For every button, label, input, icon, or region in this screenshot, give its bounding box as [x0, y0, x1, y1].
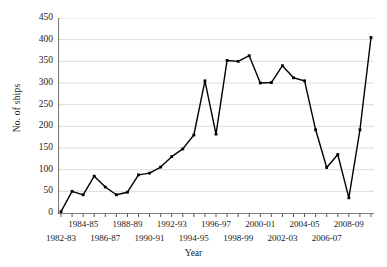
x-axis-title: Year	[0, 248, 387, 258]
y-tick-label: 100	[29, 165, 53, 175]
data-point-marker	[336, 153, 339, 156]
y-tick-label: 250	[29, 100, 53, 110]
y-axis-tick-labels: 050100150200250300350400450	[27, 0, 53, 267]
x-tick-label: 1986-87	[90, 234, 120, 243]
x-tick-label: 1996-97	[201, 220, 231, 229]
y-tick-label: 0	[29, 208, 53, 218]
x-tick-label: 1990-91	[135, 234, 165, 243]
data-point-marker	[71, 190, 74, 193]
x-tick-label: 2000-01	[245, 220, 275, 229]
data-point-marker	[237, 60, 240, 63]
data-point-marker	[215, 133, 218, 136]
x-tick-label: 1998-99	[223, 234, 253, 243]
data-point-marker	[148, 172, 151, 175]
data-point-marker	[259, 82, 262, 85]
data-point-marker	[60, 210, 63, 213]
line-chart: No. of ships 050100150200250300350400450…	[0, 0, 387, 267]
x-tick-label: 2008-09	[334, 220, 364, 229]
data-point-marker	[359, 128, 362, 131]
data-point-marker	[181, 147, 184, 150]
data-point-marker	[270, 81, 273, 84]
x-tick-label: 2004-05	[290, 220, 320, 229]
data-series-line	[61, 38, 371, 212]
data-point-marker	[325, 166, 328, 169]
y-tick-label: 400	[29, 35, 53, 45]
data-point-marker	[226, 59, 229, 62]
chart-svg	[58, 18, 374, 217]
data-point-marker	[292, 76, 295, 79]
x-tick-label: 1984-85	[68, 220, 98, 229]
data-point-marker	[248, 54, 251, 57]
y-tick-label: 50	[29, 187, 53, 197]
data-point-marker	[192, 134, 195, 137]
data-point-marker	[170, 155, 173, 158]
data-point-marker	[93, 175, 96, 178]
x-tick-label: 1992-93	[157, 220, 187, 229]
y-tick-label: 150	[29, 143, 53, 153]
x-tick-label: 1988-89	[112, 220, 142, 229]
y-axis-title: No. of ships	[6, 0, 28, 215]
x-tick-label: 2006-07	[312, 234, 342, 243]
data-point-marker	[314, 128, 317, 131]
data-point-marker	[137, 173, 140, 176]
y-tick-label: 450	[29, 13, 53, 23]
y-tick-label: 200	[29, 122, 53, 132]
plot-area	[58, 18, 374, 213]
y-tick-label: 350	[29, 57, 53, 67]
data-point-marker	[347, 196, 350, 199]
x-axis-title-label: Year	[185, 248, 203, 258]
data-point-marker	[204, 79, 207, 82]
x-tick-label: 2002-03	[267, 234, 297, 243]
data-point-marker	[159, 166, 162, 169]
y-axis-title-label: No. of ships	[12, 83, 22, 132]
data-point-marker	[126, 191, 129, 194]
data-point-marker	[104, 186, 107, 189]
x-tick-label: 1994-95	[179, 234, 209, 243]
data-point-marker	[82, 193, 85, 196]
data-point-marker	[281, 64, 284, 67]
y-tick-label: 300	[29, 78, 53, 88]
data-point-marker	[303, 79, 306, 82]
data-point-marker	[370, 36, 373, 39]
data-point-marker	[115, 193, 118, 196]
